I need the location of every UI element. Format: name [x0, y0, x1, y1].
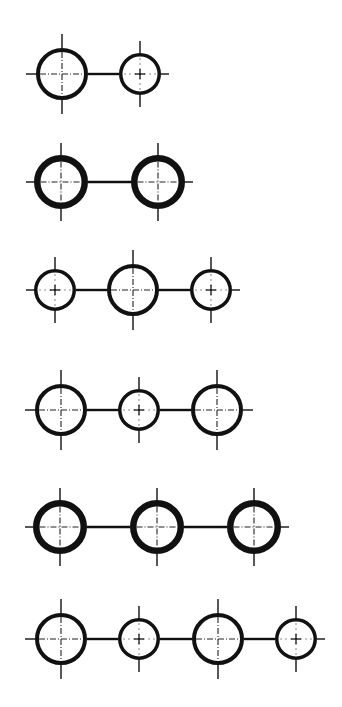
- diagram-row-3: [26, 250, 240, 330]
- large-circle-symbol: [181, 370, 253, 450]
- diagram-row-4: [25, 370, 253, 450]
- small-circle-symbol: [26, 257, 84, 323]
- diagram-row-6: [25, 599, 325, 679]
- thick-circle-symbol: [123, 143, 193, 221]
- large-circle-symbol: [25, 370, 97, 450]
- thick-circle-symbol: [122, 488, 192, 566]
- thick-circle-symbol: [26, 143, 96, 221]
- diagram-row-1: [26, 34, 169, 114]
- thick-circle-symbol: [25, 488, 95, 566]
- large-circle-symbol: [97, 250, 169, 330]
- diagram-row-2: [26, 143, 193, 221]
- small-circle-symbol: [267, 606, 325, 672]
- small-circle-symbol: [182, 257, 240, 323]
- large-circle-symbol: [26, 34, 98, 114]
- small-circle-symbol: [110, 377, 168, 443]
- diagram-row-5: [25, 488, 289, 566]
- small-circle-symbol: [110, 606, 168, 672]
- circle-arrangement-diagram: [0, 0, 342, 707]
- large-circle-symbol: [182, 599, 254, 679]
- thick-circle-symbol: [219, 488, 289, 566]
- small-circle-symbol: [111, 41, 169, 107]
- large-circle-symbol: [25, 599, 97, 679]
